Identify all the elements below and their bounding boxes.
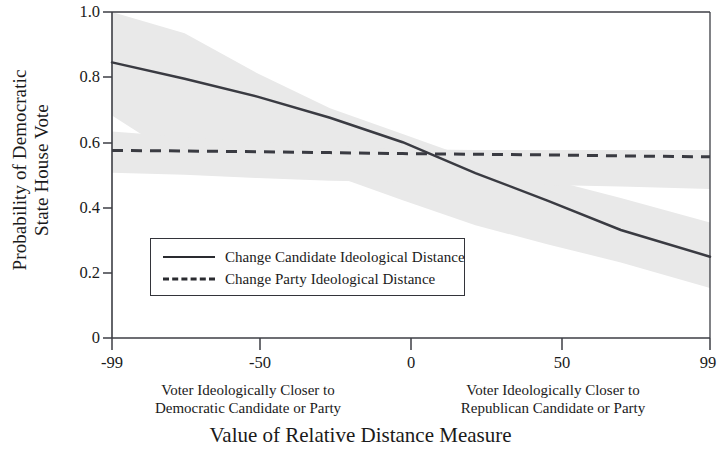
x-tick-label-50: 50 [532, 353, 592, 373]
legend-swatch-solid-line-icon [163, 250, 215, 264]
legend-item-candidate: Change Candidate Ideological Distance [151, 247, 464, 267]
x-axis-title: Value of Relative Distance Measure [0, 423, 721, 448]
x-tick-label-99: 99 [678, 353, 721, 373]
x-tick-label--99: -99 [82, 353, 142, 373]
x-axis-annotation-left-line1: Voter Ideologically Closer to [98, 381, 398, 399]
x-axis-annotation-right: Voter Ideologically Closer to Republican… [403, 381, 703, 418]
x-tick-label-0: 0 [381, 353, 441, 373]
legend-label-candidate: Change Candidate Ideological Distance [225, 249, 465, 266]
chart-figure: Probability of Democratic State House Vo… [0, 0, 721, 454]
x-axis-annotation-right-line1: Voter Ideologically Closer to [403, 381, 703, 399]
x-axis-annotation-right-line2: Republican Candidate or Party [403, 399, 703, 417]
x-axis-annotation-left-line2: Democratic Candidate or Party [98, 399, 398, 417]
legend-item-party: Change Party Ideological Distance [151, 269, 464, 289]
x-tick-label--50: -50 [230, 353, 290, 373]
x-axis-annotation-left: Voter Ideologically Closer to Democratic… [98, 381, 398, 418]
legend-label-party: Change Party Ideological Distance [225, 271, 435, 288]
legend-swatch-dashed-line-icon [163, 272, 215, 286]
chart-legend: Change Candidate Ideological Distance Ch… [150, 238, 465, 296]
